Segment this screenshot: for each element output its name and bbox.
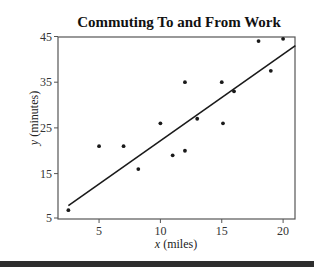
x-tick-label: 10 [154,224,166,238]
plot-frame [58,37,295,219]
x-tick-label: 15 [216,224,228,238]
y-axis: 515253545 [40,30,58,226]
data-point [122,144,126,148]
bottom-divider-bar [0,261,314,267]
y-axis-unit: (minutes) [27,91,41,140]
data-point [220,80,224,84]
data-point [269,69,273,73]
y-tick-label: 35 [40,75,52,89]
data-point [195,117,199,121]
data-point [183,149,187,153]
data-point [183,80,187,84]
x-tick-label: 5 [96,224,102,238]
y-tick-label: 15 [40,167,52,181]
y-tick-label: 5 [46,211,52,225]
x-axis-label: x (miles) [154,237,197,251]
chart-title: Commuting To and From Work [77,14,281,30]
x-axis-unit: (miles) [160,237,197,251]
data-point [281,37,285,41]
data-point [66,208,70,212]
y-axis-label: y (minutes) [27,91,41,146]
data-point [257,39,261,43]
data-point [97,144,101,148]
data-point [232,89,236,93]
y-tick-label: 45 [40,30,52,44]
data-points [66,37,285,212]
x-tick-label: 20 [277,224,289,238]
x-axis: 5101520 [96,219,289,238]
data-point [136,167,140,171]
y-tick-label: 25 [40,121,52,135]
data-point [159,121,163,125]
scatter-chart: Commuting To and From Work 5101520 51525… [0,0,314,269]
regression-line [68,46,295,206]
data-point [221,121,225,125]
data-point [171,153,175,157]
